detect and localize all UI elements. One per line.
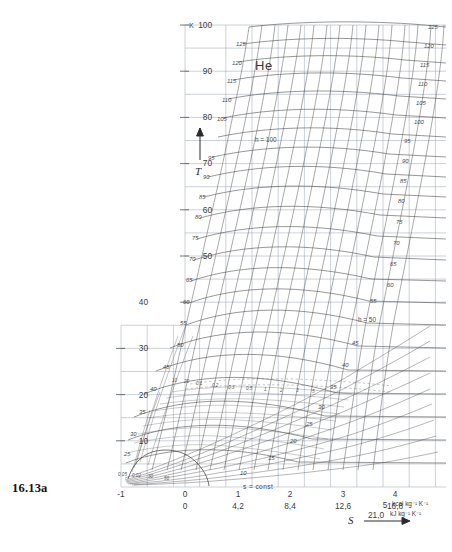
dome-label-5: 2 bbox=[280, 388, 283, 393]
dome-label-6: 3 bbox=[296, 388, 299, 393]
h-right-10: 10 bbox=[240, 470, 247, 476]
h-left-95: 95 bbox=[208, 155, 215, 161]
h-right-55: 55 bbox=[370, 298, 377, 304]
x-unit-kj: kJ kg⁻¹ K⁻¹ bbox=[390, 510, 421, 518]
x-tick-kj-12.6: 12,6 bbox=[330, 501, 356, 511]
h-right-75: 75 bbox=[396, 219, 403, 225]
h-left-35: 35 bbox=[139, 409, 146, 415]
h-left-90: 90 bbox=[203, 174, 210, 180]
x-tick-kcal-4: 4 bbox=[382, 489, 408, 499]
x-axis-title: S bbox=[348, 514, 354, 526]
y-tick-80: 80 bbox=[186, 112, 212, 122]
h-right-115: 115 bbox=[420, 62, 429, 68]
h-right-120: 120 bbox=[424, 43, 434, 49]
low-temperature-isobar-fan bbox=[125, 326, 438, 485]
dome-label-12: 0,05 bbox=[118, 472, 127, 477]
h-right-95: 95 bbox=[404, 138, 411, 144]
h-right-85: 85 bbox=[400, 178, 407, 184]
h-right-20: 20 bbox=[290, 438, 297, 444]
dome-label-13: 0,02 bbox=[132, 473, 141, 478]
h-right-100: 100 bbox=[414, 119, 424, 125]
h-left-75: 75 bbox=[192, 235, 199, 241]
dome-label-0: 0,1 bbox=[196, 381, 202, 386]
h-left-25: 25 bbox=[124, 451, 131, 457]
h-left-65: 65 bbox=[186, 277, 193, 283]
h-left-55: 55 bbox=[180, 320, 187, 326]
h-right-40: 40 bbox=[342, 362, 349, 368]
y-tick-30: 30 bbox=[122, 343, 148, 353]
x-tick-kj-4.2: 4,2 bbox=[225, 501, 251, 511]
dome-label-2: 0,3 bbox=[228, 385, 234, 390]
h-right-105: 105 bbox=[416, 100, 426, 106]
dome-label-7: 5 bbox=[312, 389, 315, 394]
h-right-110: 110 bbox=[418, 81, 427, 87]
x-tick-kj-0: 0 bbox=[172, 501, 198, 511]
substance-label: He bbox=[255, 58, 273, 73]
h-left-70: 70 bbox=[189, 256, 196, 262]
h-left-50: 50 bbox=[177, 342, 184, 348]
dome-label-3: 0,5 bbox=[246, 386, 252, 391]
h-const-upper-label: h = 100 bbox=[255, 136, 277, 143]
x-tick-kcal-3: 3 bbox=[330, 489, 356, 499]
h-right-15: 15 bbox=[268, 455, 275, 461]
dome-label-10: 30 bbox=[148, 474, 153, 479]
h-right-125: 125 bbox=[428, 24, 438, 30]
ts-diagram-plot: K 100 90 80 70 60 50 40 30 20 10 T -1 0 … bbox=[0, 0, 452, 552]
dome-label-9: 20 bbox=[184, 379, 189, 384]
x-tick-kj-8.4: 8,4 bbox=[277, 501, 303, 511]
h-left-125: 125 bbox=[236, 41, 246, 47]
h-left-110: 110 bbox=[222, 97, 231, 103]
h-left-30: 30 bbox=[130, 431, 137, 437]
h-left-45: 45 bbox=[163, 364, 170, 370]
h-right-70: 70 bbox=[393, 240, 400, 246]
h-right-30: 30 bbox=[318, 404, 325, 410]
y-axis-title: T bbox=[195, 165, 201, 177]
axis-ticks bbox=[116, 25, 189, 441]
x-tick-kcal-1: 1 bbox=[225, 489, 251, 499]
h-left-85: 85 bbox=[199, 194, 206, 200]
x-tick-kcal--1: -1 bbox=[108, 489, 134, 499]
y-tick-20: 20 bbox=[122, 390, 148, 400]
h-left-115: 115 bbox=[227, 78, 236, 84]
chart-canvas bbox=[0, 0, 452, 552]
h-left-40: 40 bbox=[150, 386, 157, 392]
dome-label-8: 10 bbox=[172, 378, 177, 383]
y-tick-100: 100 bbox=[186, 20, 212, 30]
h-left-60: 60 bbox=[183, 299, 190, 305]
s-const-label: s = const bbox=[243, 483, 273, 490]
t-axis-arrow bbox=[197, 128, 204, 160]
h-left-120: 120 bbox=[232, 60, 242, 66]
dome-label-4: 1 bbox=[264, 387, 267, 392]
h-right-25: 25 bbox=[306, 421, 313, 427]
h-left-80: 80 bbox=[195, 214, 202, 220]
x-tick-kj-21.0: 21,0 bbox=[363, 510, 389, 520]
h-right-90: 90 bbox=[402, 158, 409, 164]
y-tick-90: 90 bbox=[186, 66, 212, 76]
h-right-45: 45 bbox=[352, 340, 359, 346]
h-right-80: 80 bbox=[398, 198, 405, 204]
h-right-65: 65 bbox=[390, 261, 397, 267]
y-tick-10: 10 bbox=[122, 436, 148, 446]
x-tick-kcal-0: 0 bbox=[172, 489, 198, 499]
h-right-60: 60 bbox=[387, 282, 394, 288]
x-tick-kcal-2: 2 bbox=[277, 489, 303, 499]
critical-bundle bbox=[131, 387, 352, 459]
dome-label-1: 0,2 bbox=[212, 383, 218, 388]
h-left-105: 105 bbox=[217, 116, 227, 122]
dome-label-11: 50 bbox=[164, 476, 169, 481]
h-right-35: 35 bbox=[330, 384, 337, 390]
h-const-lower-label: h = 50 bbox=[358, 316, 376, 323]
y-tick-40: 40 bbox=[122, 297, 148, 307]
